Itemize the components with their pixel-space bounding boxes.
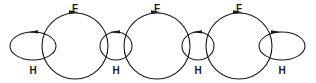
label-h-2: H bbox=[112, 65, 119, 76]
label-h-4: H bbox=[278, 65, 285, 76]
large-circle-1 bbox=[42, 13, 108, 79]
large-circle-2 bbox=[124, 13, 190, 79]
label-h-1: H bbox=[29, 65, 36, 76]
diagram-canvas: F F F H H H H bbox=[0, 0, 316, 83]
label-f-1: F bbox=[72, 3, 78, 14]
arrowhead-small-ellipse-4 bbox=[271, 30, 281, 33]
large-circle-3 bbox=[206, 13, 272, 79]
label-h-3: H bbox=[194, 65, 201, 76]
label-f-3: F bbox=[236, 3, 242, 14]
small-ellipse-1 bbox=[10, 32, 56, 60]
diagram-svg: F F F H H H H bbox=[0, 0, 316, 83]
small-ellipse-3 bbox=[182, 32, 214, 60]
small-ellipse-2 bbox=[100, 32, 132, 60]
label-f-2: F bbox=[154, 3, 160, 14]
small-ellipse-4 bbox=[259, 32, 305, 60]
arrowhead-small-ellipse-1 bbox=[28, 30, 38, 33]
